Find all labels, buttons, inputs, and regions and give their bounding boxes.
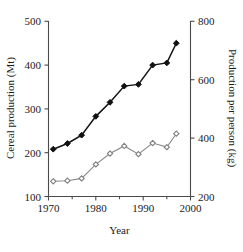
data-point [173,40,179,46]
right-tick-label-600: 600 [198,74,215,86]
series-production-per-person [51,131,179,184]
y-axis-title-right: Production per person (kg) [226,49,239,168]
right-tick-label-400: 400 [198,132,215,144]
left-axis-tick-labels: 100 200 300 400 500 [25,15,42,202]
y-axis-title-left: Cereal production (Mt) [4,57,17,159]
data-point [51,179,56,184]
cereal-production-line-chart: 100 200 300 400 500 200 400 600 800 [0,0,243,252]
right-tick-label-200: 200 [198,191,215,203]
data-point [65,178,70,183]
data-point [164,60,170,66]
x-axis-tick-labels: 1970 1980 1990 2000 [38,202,203,214]
left-tick-label-300: 300 [25,103,42,115]
x-axis-ticks [49,197,191,201]
left-tick-label-500: 500 [25,15,42,27]
left-axis-ticks [45,21,49,196]
series-line [53,43,176,149]
left-tick-label-200: 200 [25,147,42,159]
x-tick-label-1980: 1980 [85,202,108,214]
data-point [122,143,127,148]
data-point [50,146,56,152]
right-tick-label-800: 800 [198,15,215,27]
left-tick-label-400: 400 [25,59,42,71]
right-axis-ticks [191,21,195,196]
series-cereal-production [50,40,179,152]
x-axis-title: Year [109,224,130,236]
data-series-layer [50,40,179,184]
x-tick-label-1990: 1990 [132,202,155,214]
x-tick-label-1970: 1970 [38,202,61,214]
right-axis-tick-labels: 200 400 600 800 [198,15,215,202]
chart-figure: 100 200 300 400 500 200 400 600 800 [0,0,243,252]
axis-spines [49,21,191,197]
x-tick-label-2000: 2000 [180,202,203,214]
left-tick-label-100: 100 [25,191,42,203]
